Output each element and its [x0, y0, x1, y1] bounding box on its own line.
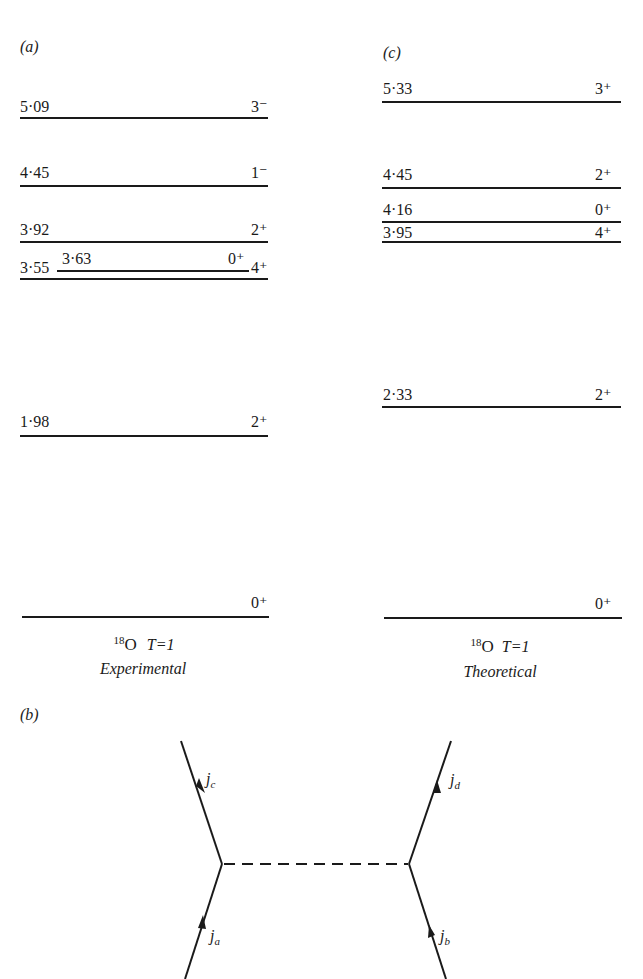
label-ja: ja	[208, 927, 220, 947]
panel-c-theoretical: (c) 5·33 3⁺ 4·45 2⁺ 4·16 0⁺ 3·95 4⁺ 2·33…	[382, 44, 622, 680]
panel-b-label: (b)	[20, 706, 39, 724]
nucleus-label: 18OT=1	[471, 636, 530, 656]
spin-parity-label: 0⁺	[595, 201, 611, 218]
panel-c-label: (c)	[383, 44, 401, 62]
figure-canvas: (a) 5·09 3⁻ 4·45 1⁻ 3·92 2⁺ 3·63 0⁺ 3·55…	[0, 0, 643, 979]
level-4-45: 4·45 1⁻	[20, 164, 268, 186]
spin-parity-label: 4⁺	[251, 259, 267, 276]
energy-label: 4·16	[383, 201, 412, 218]
propagator-jc	[181, 741, 222, 864]
energy-label: 4·45	[20, 164, 49, 181]
energy-label: 3·55	[20, 259, 49, 276]
spin-parity-label: 0⁺	[228, 250, 244, 267]
energy-label: 5·33	[383, 80, 412, 97]
isospin-label: T=1	[502, 638, 530, 655]
label-jd: jd	[448, 771, 460, 791]
mass-number: 18	[114, 634, 126, 646]
panel-c-caption: Theoretical	[463, 663, 537, 680]
level-3-95: 3·95 4⁺	[382, 224, 621, 242]
energy-label: 4·45	[383, 166, 412, 183]
spin-parity-label: 2⁺	[251, 221, 267, 238]
spin-parity-label: 2⁺	[251, 413, 267, 430]
label-jc: jc	[204, 770, 215, 790]
level-5-33: 5·33 3⁺	[382, 80, 621, 102]
panel-a-experimental: (a) 5·09 3⁻ 4·45 1⁻ 3·92 2⁺ 3·63 0⁺ 3·55…	[20, 38, 269, 678]
level-4-16: 4·16 0⁺	[382, 201, 621, 222]
energy-label: 5·09	[20, 98, 49, 115]
isospin-label: T=1	[147, 636, 175, 653]
spin-parity-label: 1⁻	[251, 164, 267, 181]
panel-a-caption: Experimental	[99, 660, 187, 678]
level-4-45-theory: 4·45 2⁺	[382, 166, 621, 188]
label-jb: jb	[438, 927, 450, 947]
energy-label: 2·33	[383, 386, 412, 403]
spin-parity-label: 3⁺	[595, 80, 611, 97]
level-1-98: 1·98 2⁺	[20, 413, 268, 436]
arrow-up-icon	[428, 925, 435, 938]
spin-parity-label: 2⁺	[595, 386, 611, 403]
spin-parity-label: 0⁺	[595, 595, 611, 612]
level-5-09: 5·09 3⁻	[20, 98, 268, 118]
level-ground-theory: 0⁺	[384, 595, 622, 618]
mass-number: 18	[471, 636, 483, 648]
element-symbol: O	[482, 637, 494, 656]
propagator-jd	[409, 741, 451, 864]
level-3-63: 3·63 0⁺	[57, 250, 249, 271]
panel-a-label: (a)	[20, 38, 39, 56]
energy-label: 3·63	[62, 250, 91, 267]
spin-parity-label: 2⁺	[595, 166, 611, 183]
energy-label: 1·98	[20, 413, 49, 430]
nucleus-label: 18OT=1	[114, 634, 175, 654]
spin-parity-label: 0⁺	[251, 594, 267, 611]
energy-label: 3·92	[20, 221, 49, 238]
arrow-up-icon	[433, 780, 441, 793]
spin-parity-label: 4⁺	[595, 224, 611, 241]
propagator-jb	[409, 864, 446, 979]
spin-parity-label: 3⁻	[251, 98, 267, 115]
panel-b-diagram: (b) jc jd ja jb	[20, 706, 460, 979]
energy-label: 3·95	[383, 224, 412, 241]
level-ground: 0⁺	[22, 594, 269, 617]
level-3-92: 3·92 2⁺	[20, 221, 268, 242]
level-2-33: 2·33 2⁺	[382, 386, 621, 407]
element-symbol: O	[125, 635, 137, 654]
